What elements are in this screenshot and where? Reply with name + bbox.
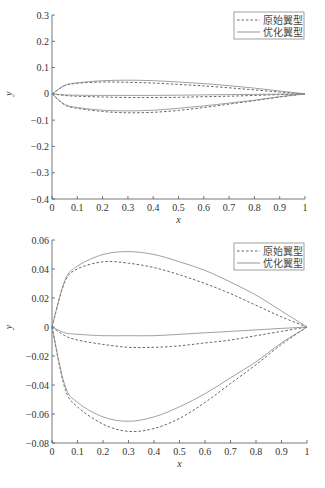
y-tick-label: −0.02 xyxy=(26,351,49,362)
original-airfoil-camber xyxy=(52,327,307,348)
y-tick-label: −0.08 xyxy=(26,438,49,449)
x-tick-label: 0.6 xyxy=(199,446,212,457)
y-tick-label: 0.06 xyxy=(32,235,50,246)
x-tick-label: 0.5 xyxy=(172,202,185,213)
x-tick-label: 0 xyxy=(50,202,55,213)
x-tick-label: 0 xyxy=(50,446,55,457)
y-tick-label: −0.04 xyxy=(26,380,49,391)
legend-entry: 原始翼型 xyxy=(263,245,303,257)
y-tick-label: 0 xyxy=(44,322,49,333)
chart-1: 00.10.20.30.40.50.60.70.80.910.30.20.10−… xyxy=(3,10,308,226)
x-tick-label: 0.4 xyxy=(147,202,160,213)
optimized-airfoil-lower xyxy=(52,327,307,421)
x-tick-label: 0.6 xyxy=(198,202,211,213)
original-airfoil-upper xyxy=(52,82,305,94)
y-tick-label: −0.2 xyxy=(31,141,49,152)
airfoil-comparison-charts: 00.10.20.30.40.50.60.70.80.910.30.20.10−… xyxy=(0,0,325,488)
x-tick-label: 0.3 xyxy=(122,446,135,457)
x-axis-label: x xyxy=(175,214,181,225)
legend-entry: 原始翼型 xyxy=(263,14,303,26)
legend-entry: 优化翼型 xyxy=(263,257,303,269)
x-tick-label: 1 xyxy=(303,202,308,213)
x-tick-label: 0.8 xyxy=(250,446,263,457)
x-tick-label: 0.3 xyxy=(122,202,135,213)
y-tick-label: 0 xyxy=(44,88,49,99)
x-tick-label: 0.1 xyxy=(71,202,84,213)
x-tick-label: 0.2 xyxy=(96,202,109,213)
y-tick-label: −0.1 xyxy=(31,115,49,126)
y-tick-label: −0.06 xyxy=(26,409,49,420)
y-tick-label: 0.2 xyxy=(37,36,50,47)
x-tick-label: 1 xyxy=(305,446,310,457)
optimized-airfoil-camber xyxy=(52,94,305,96)
x-tick-label: 0.8 xyxy=(248,202,261,213)
x-tick-label: 0.2 xyxy=(97,446,110,457)
x-tick-label: 0.7 xyxy=(223,202,236,213)
y-tick-label: −0.4 xyxy=(31,194,49,205)
chart-2: 00.10.20.30.40.50.60.70.80.910.060.040.0… xyxy=(3,235,310,470)
x-tick-label: 0.4 xyxy=(148,446,161,457)
x-tick-label: 0.1 xyxy=(71,446,84,457)
y-axis-label: y xyxy=(3,324,14,330)
y-tick-label: −0.3 xyxy=(31,167,49,178)
x-tick-label: 0.9 xyxy=(275,446,288,457)
x-tick-label: 0.5 xyxy=(173,446,186,457)
optimized-airfoil-camber xyxy=(52,327,307,336)
original-airfoil-upper xyxy=(52,261,307,327)
x-tick-label: 0.9 xyxy=(273,202,286,213)
y-tick-label: 0.3 xyxy=(37,10,50,21)
x-axis-label: x xyxy=(176,458,182,469)
legend-entry: 优化翼型 xyxy=(263,26,303,38)
y-axis-label: y xyxy=(3,91,14,97)
y-tick-label: 0.02 xyxy=(32,293,50,304)
y-tick-label: 0.04 xyxy=(32,264,50,275)
x-tick-label: 0.7 xyxy=(224,446,237,457)
y-tick-label: 0.1 xyxy=(37,62,50,73)
